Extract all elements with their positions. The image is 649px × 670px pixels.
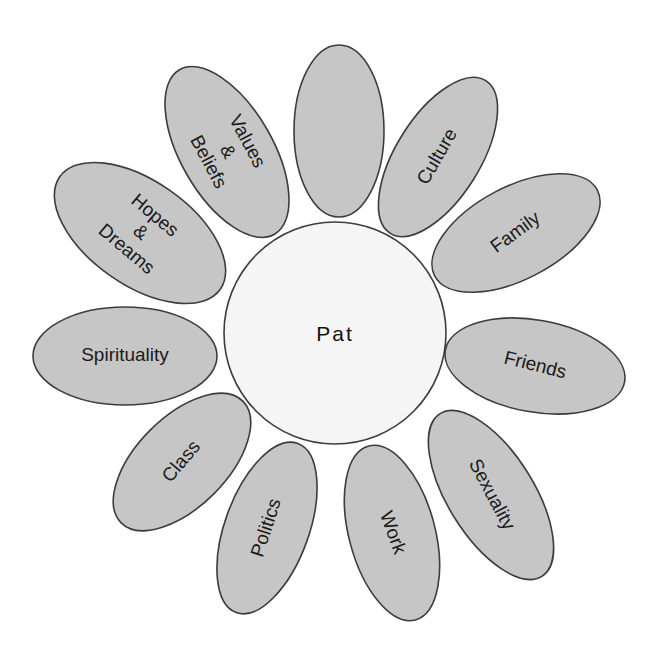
- center-label: Pat: [316, 322, 354, 345]
- petal-shape: [294, 45, 384, 217]
- center-node: Pat: [224, 222, 446, 444]
- identity-flower-diagram: CultureFamilyFriendsSexualityWorkPolitic…: [0, 0, 649, 670]
- petal-friends: Friends: [437, 305, 632, 427]
- petal-top-blank: [294, 45, 384, 217]
- petal-label: Spirituality: [81, 344, 169, 365]
- petal-spirituality: Spirituality: [33, 307, 217, 405]
